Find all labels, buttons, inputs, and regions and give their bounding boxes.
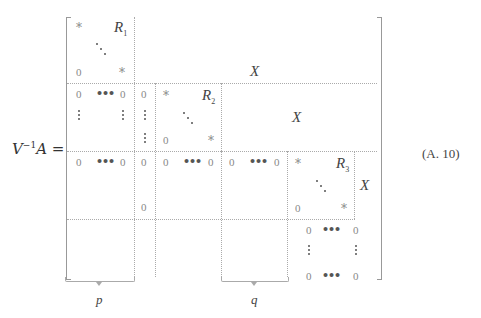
r2-vdots-b-icon	[122, 110, 124, 122]
divider-h3	[67, 219, 355, 220]
r2-zero-c: 0	[141, 88, 147, 100]
right-bracket	[377, 17, 382, 280]
r4-vdots-a-icon	[308, 245, 310, 257]
divider-v1	[134, 17, 135, 277]
r2-vdots-d-icon	[144, 133, 146, 145]
brace-q-label: q	[251, 292, 258, 308]
r4-hdots-b-icon: •••	[322, 269, 340, 282]
r1-label: R1	[114, 19, 127, 38]
r3-zero-c: 0	[141, 156, 147, 168]
r3-hdots-c-icon: •••	[249, 155, 267, 168]
r2-zero-d: 0	[163, 134, 169, 146]
r3-zero-f: 0	[229, 156, 235, 168]
r3-star-top: *	[295, 157, 301, 171]
r2-zero-a: 0	[76, 88, 82, 100]
r4-zero-b: 0	[353, 224, 359, 236]
lhs-exponent: −1	[23, 140, 36, 150]
r4-zero-c: 0	[306, 270, 312, 282]
brace-q-tip	[251, 282, 257, 286]
divider-v4	[287, 151, 288, 277]
r4-zero-d: 0	[353, 270, 359, 282]
r4-zero-a: 0	[306, 224, 312, 236]
x-row2: X	[292, 109, 301, 126]
left-bracket	[66, 17, 71, 280]
lhs-A-equals: A =	[36, 140, 64, 158]
x-row3: X	[360, 177, 369, 194]
r3-zero-i: 0	[295, 202, 301, 214]
divider-v5	[354, 151, 355, 219]
r2-star-top: *	[163, 89, 169, 103]
r3-zero-e: 0	[208, 156, 214, 168]
lhs-V: V	[12, 140, 23, 158]
r3-label: R3	[336, 155, 349, 174]
r2-hdots-icon: •••	[96, 87, 114, 100]
r4-vdots-b-icon	[355, 245, 357, 257]
r3-zero-g: 0	[274, 156, 280, 168]
r3-zero-h: 0	[141, 201, 147, 213]
brace-p-tip	[96, 282, 102, 286]
x-top: X	[250, 63, 259, 80]
divider-v3	[221, 83, 222, 151]
divider-v3b	[221, 151, 222, 277]
r3-zero-b: 0	[120, 156, 126, 168]
r3-zero-a: 0	[76, 156, 82, 168]
divider-h1	[67, 83, 377, 84]
divider-v2	[155, 83, 156, 277]
r3-star-bottom: *	[341, 202, 347, 216]
r3-zero-d: 0	[163, 156, 169, 168]
r2-label: R2	[202, 87, 215, 106]
equation-number: (A. 10)	[422, 146, 460, 162]
r2-star-bottom: *	[208, 134, 214, 148]
r3-hdots-b-icon: •••	[183, 155, 201, 168]
r2-zero-b: 0	[120, 88, 126, 100]
r2-vdots-a-icon	[78, 110, 80, 122]
divider-h2	[67, 151, 377, 152]
brace-p-label: p	[96, 292, 103, 308]
r1-star-bottom: *	[119, 66, 125, 80]
r3-hdots-a-icon: •••	[96, 155, 114, 168]
r1-star-top: *	[76, 21, 82, 35]
r4-hdots-a-icon: •••	[322, 223, 340, 236]
lhs-label: V−1A =	[12, 140, 64, 158]
r2-vdots-c-icon	[144, 110, 146, 122]
r1-zero: 0	[76, 66, 82, 78]
